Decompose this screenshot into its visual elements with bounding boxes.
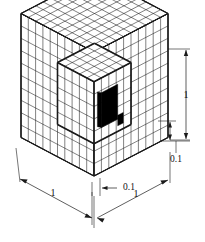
- right-vertical-dim-label: 1: [184, 89, 189, 100]
- bottom-center-dim-label: 0.1: [123, 182, 135, 192]
- right-small-dim-label: 0.1: [170, 154, 182, 164]
- black-cell-left-face: [97, 92, 101, 128]
- inner-cube: [58, 43, 132, 144]
- cube-geometry: [21, 0, 168, 176]
- bottom-left-dim-label: 1: [51, 187, 56, 198]
- cube-figure: 1 0.1 1 1 0.1: [0, 0, 205, 242]
